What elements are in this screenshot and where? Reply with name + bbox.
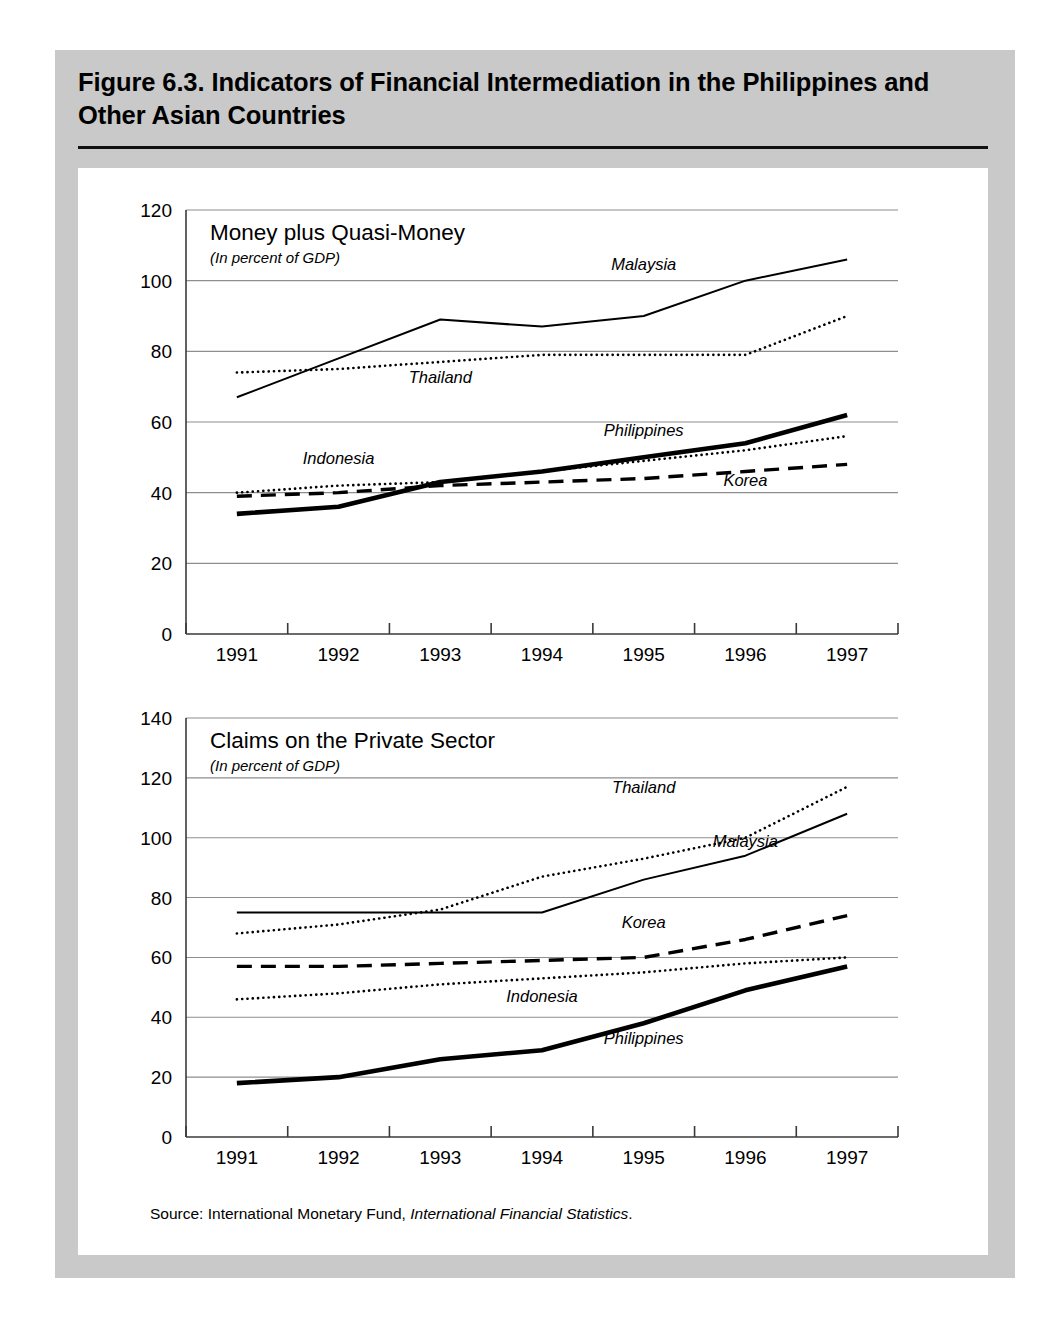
x-axis-tick-label: 1995 bbox=[623, 1147, 665, 1168]
figure-page: Figure 6.3. Indicators of Financial Inte… bbox=[0, 0, 1053, 1326]
series-line-thailand bbox=[237, 316, 847, 373]
series-label-thailand: Thailand bbox=[612, 778, 676, 796]
source-publication: International Financial Statistics bbox=[410, 1205, 628, 1222]
chart-claims-on-the-private-sector-svg: 0204060801001201401991199219931994199519… bbox=[78, 676, 988, 1186]
x-axis-tick-label: 1996 bbox=[724, 644, 766, 665]
series-label-philippines: Philippines bbox=[604, 1029, 684, 1047]
source-note: Source: International Monetary Fund, Int… bbox=[150, 1205, 633, 1223]
series-label-korea: Korea bbox=[622, 913, 666, 931]
y-axis-tick-label: 80 bbox=[151, 888, 172, 909]
series-label-indonesia: Indonesia bbox=[303, 449, 375, 467]
x-axis-tick-label: 1991 bbox=[216, 1147, 258, 1168]
source-prefix: Source: International Monetary Fund, bbox=[150, 1205, 406, 1222]
source-suffix: . bbox=[628, 1205, 632, 1222]
y-axis-tick-label: 140 bbox=[140, 708, 172, 729]
x-axis-tick-label: 1993 bbox=[419, 644, 461, 665]
x-axis-tick-label: 1995 bbox=[623, 644, 665, 665]
panel-subtitle: (In percent of GDP) bbox=[210, 249, 340, 266]
y-axis-tick-label: 40 bbox=[151, 483, 172, 504]
series-label-korea: Korea bbox=[723, 471, 767, 489]
x-axis-tick-label: 1994 bbox=[521, 1147, 564, 1168]
y-axis-tick-label: 20 bbox=[151, 1067, 172, 1088]
series-label-malaysia: Malaysia bbox=[611, 255, 676, 273]
title-divider bbox=[78, 146, 988, 149]
series-label-indonesia: Indonesia bbox=[506, 987, 578, 1005]
x-axis-tick-label: 1992 bbox=[317, 644, 359, 665]
y-axis-tick-label: 20 bbox=[151, 553, 172, 574]
x-axis-tick-label: 1992 bbox=[317, 1147, 359, 1168]
chart-money-plus-quasi-money-svg: 0204060801001201991199219931994199519961… bbox=[78, 168, 988, 676]
y-axis-tick-label: 80 bbox=[151, 341, 172, 362]
y-axis-tick-label: 40 bbox=[151, 1007, 172, 1028]
x-axis-tick-label: 1993 bbox=[419, 1147, 461, 1168]
chart-claims-on-the-private-sector: 0204060801001201401991199219931994199519… bbox=[78, 676, 988, 1186]
x-axis-tick-label: 1997 bbox=[826, 1147, 868, 1168]
x-axis-tick-label: 1994 bbox=[521, 644, 564, 665]
chart-money-plus-quasi-money: 0204060801001201991199219931994199519961… bbox=[78, 168, 988, 676]
y-axis-tick-label: 60 bbox=[151, 947, 172, 968]
series-line-philippines bbox=[237, 966, 847, 1083]
y-axis-tick-label: 120 bbox=[140, 768, 172, 789]
figure-title: Figure 6.3. Indicators of Financial Inte… bbox=[78, 66, 978, 132]
panel-title: Claims on the Private Sector bbox=[210, 728, 496, 753]
series-label-malaysia: Malaysia bbox=[713, 832, 778, 850]
x-axis-tick-label: 1997 bbox=[826, 644, 868, 665]
y-axis-tick-label: 0 bbox=[161, 624, 172, 645]
x-axis-tick-label: 1996 bbox=[724, 1147, 766, 1168]
y-axis-tick-label: 60 bbox=[151, 412, 172, 433]
y-axis-tick-label: 120 bbox=[140, 200, 172, 221]
panel-title: Money plus Quasi-Money bbox=[210, 220, 466, 245]
series-label-philippines: Philippines bbox=[604, 421, 684, 439]
series-label-thailand: Thailand bbox=[409, 368, 473, 386]
y-axis-tick-label: 100 bbox=[140, 271, 172, 292]
series-line-korea bbox=[237, 916, 847, 967]
panel-subtitle: (In percent of GDP) bbox=[210, 757, 340, 774]
y-axis-tick-label: 0 bbox=[161, 1127, 172, 1148]
y-axis-tick-label: 100 bbox=[140, 828, 172, 849]
x-axis-tick-label: 1991 bbox=[216, 644, 258, 665]
